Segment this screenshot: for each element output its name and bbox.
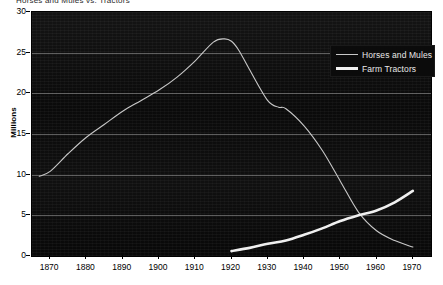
y-axis-tick-label: 20 [0,87,26,97]
legend-swatch-farm-tractors-icon [336,67,358,70]
x-axis-ticks: 1870188018901900191019201930194019501960… [31,255,431,285]
x-axis-tick-mark [122,255,123,259]
y-axis-tick-mark [26,92,30,93]
chart-container: Horses and Mules vs. Tractors Millions 0… [0,0,443,285]
x-axis-tick-mark [85,255,86,259]
series-line-farm-tractors [232,191,413,251]
y-axis-tick-label: 0 [0,250,26,260]
x-axis-tick-label: 1950 [319,262,359,272]
y-axis-tick-mark [26,174,30,175]
x-axis-tick-mark [376,255,377,259]
chart-title-clipped: Horses and Mules vs. Tractors [16,0,236,5]
x-axis-tick-mark [412,255,413,259]
x-axis-tick-label: 1970 [392,262,432,272]
x-axis-tick-label: 1900 [138,262,178,272]
x-axis-tick-label: 1920 [211,262,251,272]
y-axis-tick-label: 25 [0,47,26,57]
x-axis-tick-mark [231,255,232,259]
y-axis-tick-mark [26,255,30,256]
chart-legend: Horses and Mules Farm Tractors [330,45,435,77]
legend-label-horses-and-mules: Horses and Mules [362,50,432,60]
x-axis-tick-label: 1880 [65,262,105,272]
y-axis-tick-label: 10 [0,169,26,179]
legend-item-farm-tractors[interactable]: Farm Tractors [331,61,416,76]
legend-item-horses-and-mules[interactable]: Horses and Mules [331,47,432,62]
y-axis-tick-mark [26,214,30,215]
y-axis-tick-mark [26,52,30,53]
x-axis-tick-mark [49,255,50,259]
y-axis-ticks: 051015202530 [0,0,26,285]
y-axis-tick-label: 5 [0,209,26,219]
x-axis-tick-mark [303,255,304,259]
y-axis-tick-label: 30 [0,6,26,16]
x-axis-tick-label: 1930 [247,262,287,272]
x-axis-tick-mark [194,255,195,259]
x-axis-tick-label: 1910 [174,262,214,272]
y-axis-tick-label: 15 [0,128,26,138]
x-axis-tick-mark [158,255,159,259]
x-axis-tick-mark [339,255,340,259]
legend-label-farm-tractors: Farm Tractors [362,64,416,74]
x-axis-tick-label: 1870 [29,262,69,272]
y-axis-tick-mark [26,11,30,12]
x-axis-tick-label: 1940 [283,262,323,272]
legend-swatch-horses-and-mules-icon [336,54,358,55]
x-axis-tick-mark [267,255,268,259]
x-axis-tick-label: 1960 [356,262,396,272]
y-axis-tick-mark [26,133,30,134]
x-axis-tick-label: 1890 [102,262,142,272]
